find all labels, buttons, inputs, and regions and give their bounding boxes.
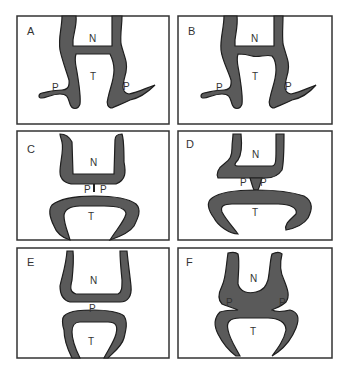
panel-d-region-p-right: P	[260, 177, 267, 188]
panel-f-region-t: T	[250, 326, 256, 337]
panel-b-region-p-left: P	[216, 82, 223, 93]
panel-a-region-p-left: P	[52, 82, 59, 93]
panel-a-region-p-right: P	[123, 81, 130, 92]
figure: .band { fill: #5a5a5a; stroke: #1e1e1e; …	[0, 0, 351, 378]
panel-a: A N T P P	[17, 16, 169, 124]
panel-f-region-p-right: P	[279, 297, 286, 308]
panel-d: D N P P T	[178, 131, 332, 240]
panel-b: B N T P P	[178, 16, 332, 124]
panel-a-label: A	[27, 25, 35, 37]
panel-a-region-t: T	[90, 71, 96, 82]
panel-f-region-p-left: P	[226, 297, 233, 308]
panel-b-region-p-right: P	[285, 81, 292, 92]
panel-c-label: C	[27, 143, 35, 155]
panel-d-region-n: N	[252, 149, 259, 160]
panel-c-region-t: T	[88, 211, 94, 222]
panel-d-label: D	[186, 138, 194, 150]
panel-d-region-t: T	[252, 207, 258, 218]
panel-a-region-n: N	[89, 33, 96, 44]
panel-c: C N P P T	[17, 131, 169, 240]
panel-c-region-p-left: P	[84, 184, 91, 195]
panel-c-region-n: N	[90, 157, 97, 168]
panel-e-region-t: T	[88, 336, 94, 347]
panel-f-label: F	[186, 256, 193, 268]
panel-e: E N P T	[17, 248, 169, 358]
panel-c-region-p-right: P	[100, 184, 107, 195]
panel-e-region-n: N	[90, 275, 97, 286]
panel-b-label: B	[188, 25, 195, 37]
panel-d-region-p-left: P	[240, 177, 247, 188]
panel-f-region-n: N	[250, 273, 257, 284]
panel-e-label: E	[27, 256, 34, 268]
panel-c-connector	[93, 184, 95, 192]
panel-e-region-p: P	[89, 303, 96, 314]
panel-b-region-n: N	[251, 33, 258, 44]
panel-f: F N P P T	[178, 248, 332, 358]
panel-b-region-t: T	[252, 71, 258, 82]
